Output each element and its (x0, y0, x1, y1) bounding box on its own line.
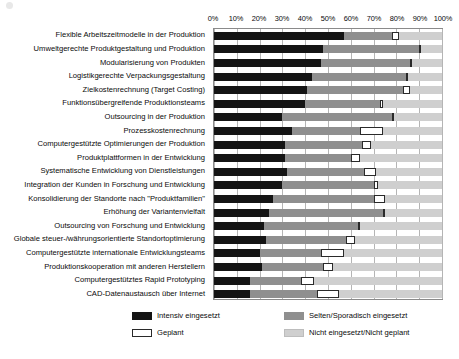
bar-segment (214, 45, 323, 53)
bar-segment (383, 100, 442, 108)
category-label: Erhöhung der Variantenvielfalt (103, 207, 205, 216)
legend-item: Selten/Sporadisch eingesetzt (284, 311, 407, 320)
bar-row (214, 138, 442, 152)
bar-segment (385, 209, 442, 217)
bar-row (214, 124, 442, 138)
x-axis-tick-0: 0% (208, 14, 218, 23)
bar-segment (307, 86, 403, 94)
x-axis-tick-labels: 0%10%20%30%40%50%60%70%80%90%100% (213, 14, 443, 26)
x-axis-tick-60: 60% (344, 14, 359, 23)
category-label: Computergestütztes Rapid Prototyping (75, 275, 205, 284)
chart-legend: Intensiv eingesetztSelten/Sporadisch ein… (132, 311, 432, 345)
bar-segment (214, 195, 273, 203)
category-label: Zielkostenrechnung (Target Costing) (83, 85, 205, 94)
stacked-bar-chart: 0%10%20%30%40%50%60%70%80%90%100% Flexib… (0, 0, 459, 359)
swatch-nicht-icon (284, 329, 304, 337)
x-axis-tick-50: 50% (321, 14, 336, 23)
category-label: Konsolidierung der Standorte nach "Produ… (28, 194, 205, 203)
bar-segment (260, 249, 322, 257)
category-label: Produktplattformen in der Entwicklung (77, 153, 205, 162)
bar-row (214, 233, 442, 247)
stacked-bar (214, 277, 442, 285)
stacked-bar (214, 168, 442, 176)
bar-segment (273, 195, 373, 203)
bar-row (214, 219, 442, 233)
stacked-bar (214, 73, 442, 81)
bar-segment (408, 73, 442, 81)
legend-label: Selten/Sporadisch eingesetzt (309, 311, 407, 320)
category-label: Globale steuer-/währungsorientierte Stan… (14, 234, 205, 243)
bar-segment (266, 236, 346, 244)
stacked-bar (214, 249, 442, 257)
x-axis-tick-90: 90% (413, 14, 428, 23)
bar-row (214, 29, 442, 43)
legend-item: Intensiv eingesetzt (132, 311, 220, 320)
bar-row (214, 206, 442, 220)
bar-segment (314, 277, 442, 285)
bar-segment (394, 113, 442, 121)
bar-segment (214, 73, 312, 81)
plot-area (213, 28, 443, 300)
bar-rows (214, 29, 442, 299)
bar-segment (364, 168, 375, 176)
category-label: CAD-Datenaustausch über Internet (86, 289, 205, 298)
bar-segment (214, 168, 287, 176)
bar-segment (392, 32, 399, 40)
bar-segment (214, 181, 282, 189)
bar-segment (312, 73, 405, 81)
bar-segment (378, 181, 442, 189)
stacked-bar (214, 59, 442, 67)
stacked-bar (214, 32, 442, 40)
bar-segment (360, 127, 383, 135)
bar-segment (262, 263, 324, 271)
bar-segment (214, 154, 285, 162)
stacked-bar (214, 263, 442, 271)
bar-segment (333, 263, 442, 271)
bar-segment (214, 127, 292, 135)
bar-segment (214, 141, 285, 149)
bar-row (214, 111, 442, 125)
bar-segment (383, 127, 442, 135)
swatch-geplant-icon (132, 329, 152, 337)
legend-item: Nicht eingesetzt/Nicht geplant (284, 328, 409, 337)
bar-row (214, 151, 442, 165)
swatch-selten-icon (284, 312, 304, 320)
bar-row (214, 83, 442, 97)
stacked-bar (214, 141, 442, 149)
bar-segment (410, 86, 442, 94)
bar-segment (214, 113, 282, 121)
bar-segment (376, 168, 442, 176)
category-label: Outsourcing von Forschung und Entwicklun… (54, 221, 205, 230)
bar-segment (321, 59, 410, 67)
bar-segment (214, 290, 250, 298)
bar-segment (214, 222, 264, 230)
stacked-bar (214, 209, 442, 217)
x-axis-tick-20: 20% (252, 14, 267, 23)
category-label: Integration der Kunden in Forschung und … (24, 180, 205, 189)
bar-segment (214, 249, 260, 257)
bar-segment (214, 263, 262, 271)
bar-segment (317, 290, 340, 298)
bar-row (214, 70, 442, 84)
bar-segment (287, 168, 365, 176)
legend-label: Nicht eingesetzt/Nicht geplant (309, 328, 409, 337)
bar-segment (344, 249, 442, 257)
bar-segment (385, 195, 442, 203)
stacked-bar (214, 45, 442, 53)
bar-segment (264, 222, 357, 230)
stacked-bar (214, 222, 442, 230)
bar-row (214, 43, 442, 57)
category-label: Umweltgerechte Produktgestaltung und Pro… (34, 44, 205, 53)
bar-segment (421, 45, 442, 53)
bar-segment (362, 141, 371, 149)
bar-row (214, 247, 442, 261)
bar-segment (360, 154, 442, 162)
bar-segment (355, 236, 442, 244)
bar-segment (282, 181, 373, 189)
x-axis-tick-70: 70% (367, 14, 382, 23)
bar-row (214, 56, 442, 70)
stacked-bar (214, 236, 442, 244)
legend-label: Intensiv eingesetzt (157, 311, 220, 320)
stacked-bar (214, 86, 442, 94)
bar-segment (305, 100, 380, 108)
